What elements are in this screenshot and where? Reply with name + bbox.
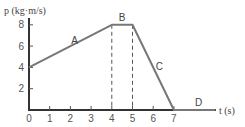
y-tick-label: 2: [18, 83, 24, 94]
axes: [29, 18, 216, 111]
x-tick-label: 6: [150, 113, 156, 124]
chart: 012345672468 ABCD p (kg·m/s) t (s): [0, 0, 245, 127]
dashed-guides: [112, 25, 133, 110]
series: [29, 25, 215, 110]
x-tick-label: 1: [47, 113, 53, 124]
x-axis-title: t (s): [219, 105, 235, 117]
y-tick-label: 8: [18, 19, 24, 30]
x-tick-label: 3: [88, 113, 94, 124]
segment-label-a: A: [71, 35, 78, 46]
x-tick-label: 7: [171, 113, 177, 124]
x-tick-label: 0: [26, 113, 32, 124]
x-tick-label: 4: [109, 113, 115, 124]
y-tick-label: 6: [18, 41, 24, 52]
segment-label-c: C: [156, 61, 163, 72]
x-tick-label: 2: [68, 113, 74, 124]
y-tick-label: 4: [18, 62, 24, 73]
x-tick-label: 5: [130, 113, 136, 124]
segment-labels: ABCD: [71, 12, 202, 109]
y-axis-title: p (kg·m/s): [4, 5, 46, 17]
ticks: 012345672468: [18, 19, 177, 124]
segment-label-d: D: [195, 97, 202, 108]
segment-label-b: B: [119, 12, 126, 23]
momentum-line: [29, 25, 215, 110]
